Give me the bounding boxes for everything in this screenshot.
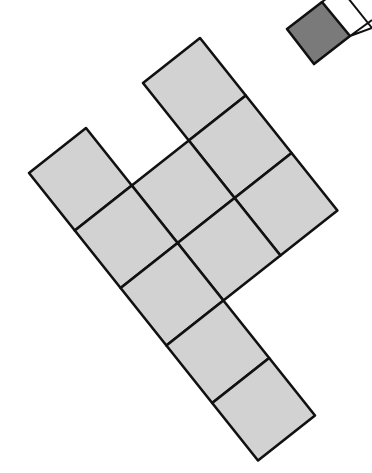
net-cells [29, 38, 337, 461]
shaded-square [287, 2, 350, 64]
squares-diagram [0, 0, 372, 473]
reference-squares [287, 0, 372, 64]
